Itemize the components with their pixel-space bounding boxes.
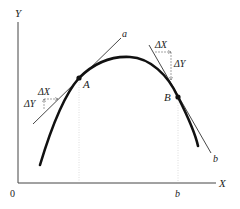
tangent-b-label: b (213, 153, 218, 164)
origin-label: 0 (10, 188, 15, 199)
curve (40, 57, 198, 165)
diagram-canvas: Y X 0 b a b A B ΔX ΔY ΔX ΔY (0, 0, 240, 209)
point-a-marker (76, 75, 81, 80)
x-tick-label-b: b (175, 188, 180, 199)
delta-y-label-b: ΔY (173, 58, 187, 69)
y-axis-label: Y (15, 7, 23, 19)
point-b-marker (175, 94, 180, 99)
delta-x-label-a: ΔX (37, 86, 51, 97)
point-b-label: B (164, 91, 171, 103)
point-a-label: A (82, 78, 90, 90)
delta-x-label-b: ΔX (154, 39, 168, 50)
delta-y-label-a: ΔY (23, 98, 37, 109)
tangent-a-label: a (122, 28, 127, 39)
x-axis-label: X (218, 177, 227, 189)
